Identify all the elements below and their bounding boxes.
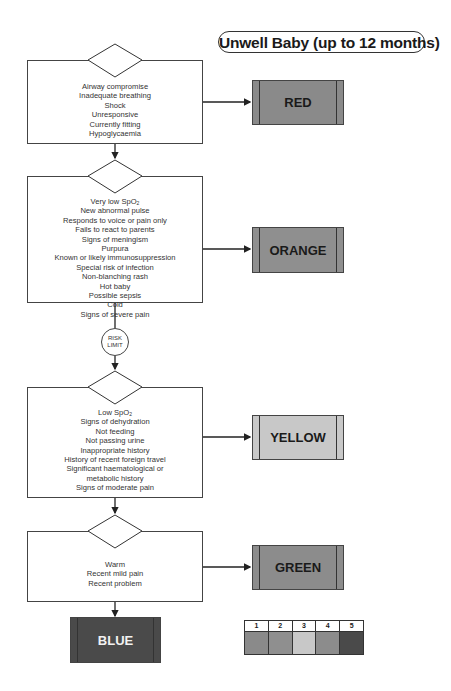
legend-number: 4 [316,621,340,631]
legend-swatch-1 [245,631,269,654]
category-green: GREEN [252,545,344,590]
category-orange: ORANGE [252,227,344,273]
decision-diamonds [0,0,451,691]
legend-numbers: 1 2 3 4 5 [245,621,363,631]
risk-limit-marker: RISK LIMIT [101,328,129,356]
decision-diamond [88,515,142,548]
category-blue: BLUE [70,617,161,663]
category-red: RED [252,80,344,125]
category-label: ORANGE [269,243,326,258]
category-yellow: YELLOW [252,415,344,460]
legend-swatch-4 [316,631,340,654]
legend-swatch-2 [269,631,293,654]
legend-swatch-5 [340,631,363,654]
priority-legend: 1 2 3 4 5 [244,620,364,655]
category-label: RED [284,95,311,110]
legend-number: 1 [245,621,269,631]
decision-diamond [88,371,142,404]
legend-number: 3 [293,621,317,631]
legend-number: 5 [340,621,363,631]
legend-swatch-3 [293,631,317,654]
category-label: BLUE [98,633,133,648]
category-label: YELLOW [270,430,326,445]
legend-swatches [245,631,363,654]
decision-diamond [88,44,142,77]
decision-diamond [88,160,142,193]
legend-number: 2 [269,621,293,631]
category-label: GREEN [275,560,321,575]
